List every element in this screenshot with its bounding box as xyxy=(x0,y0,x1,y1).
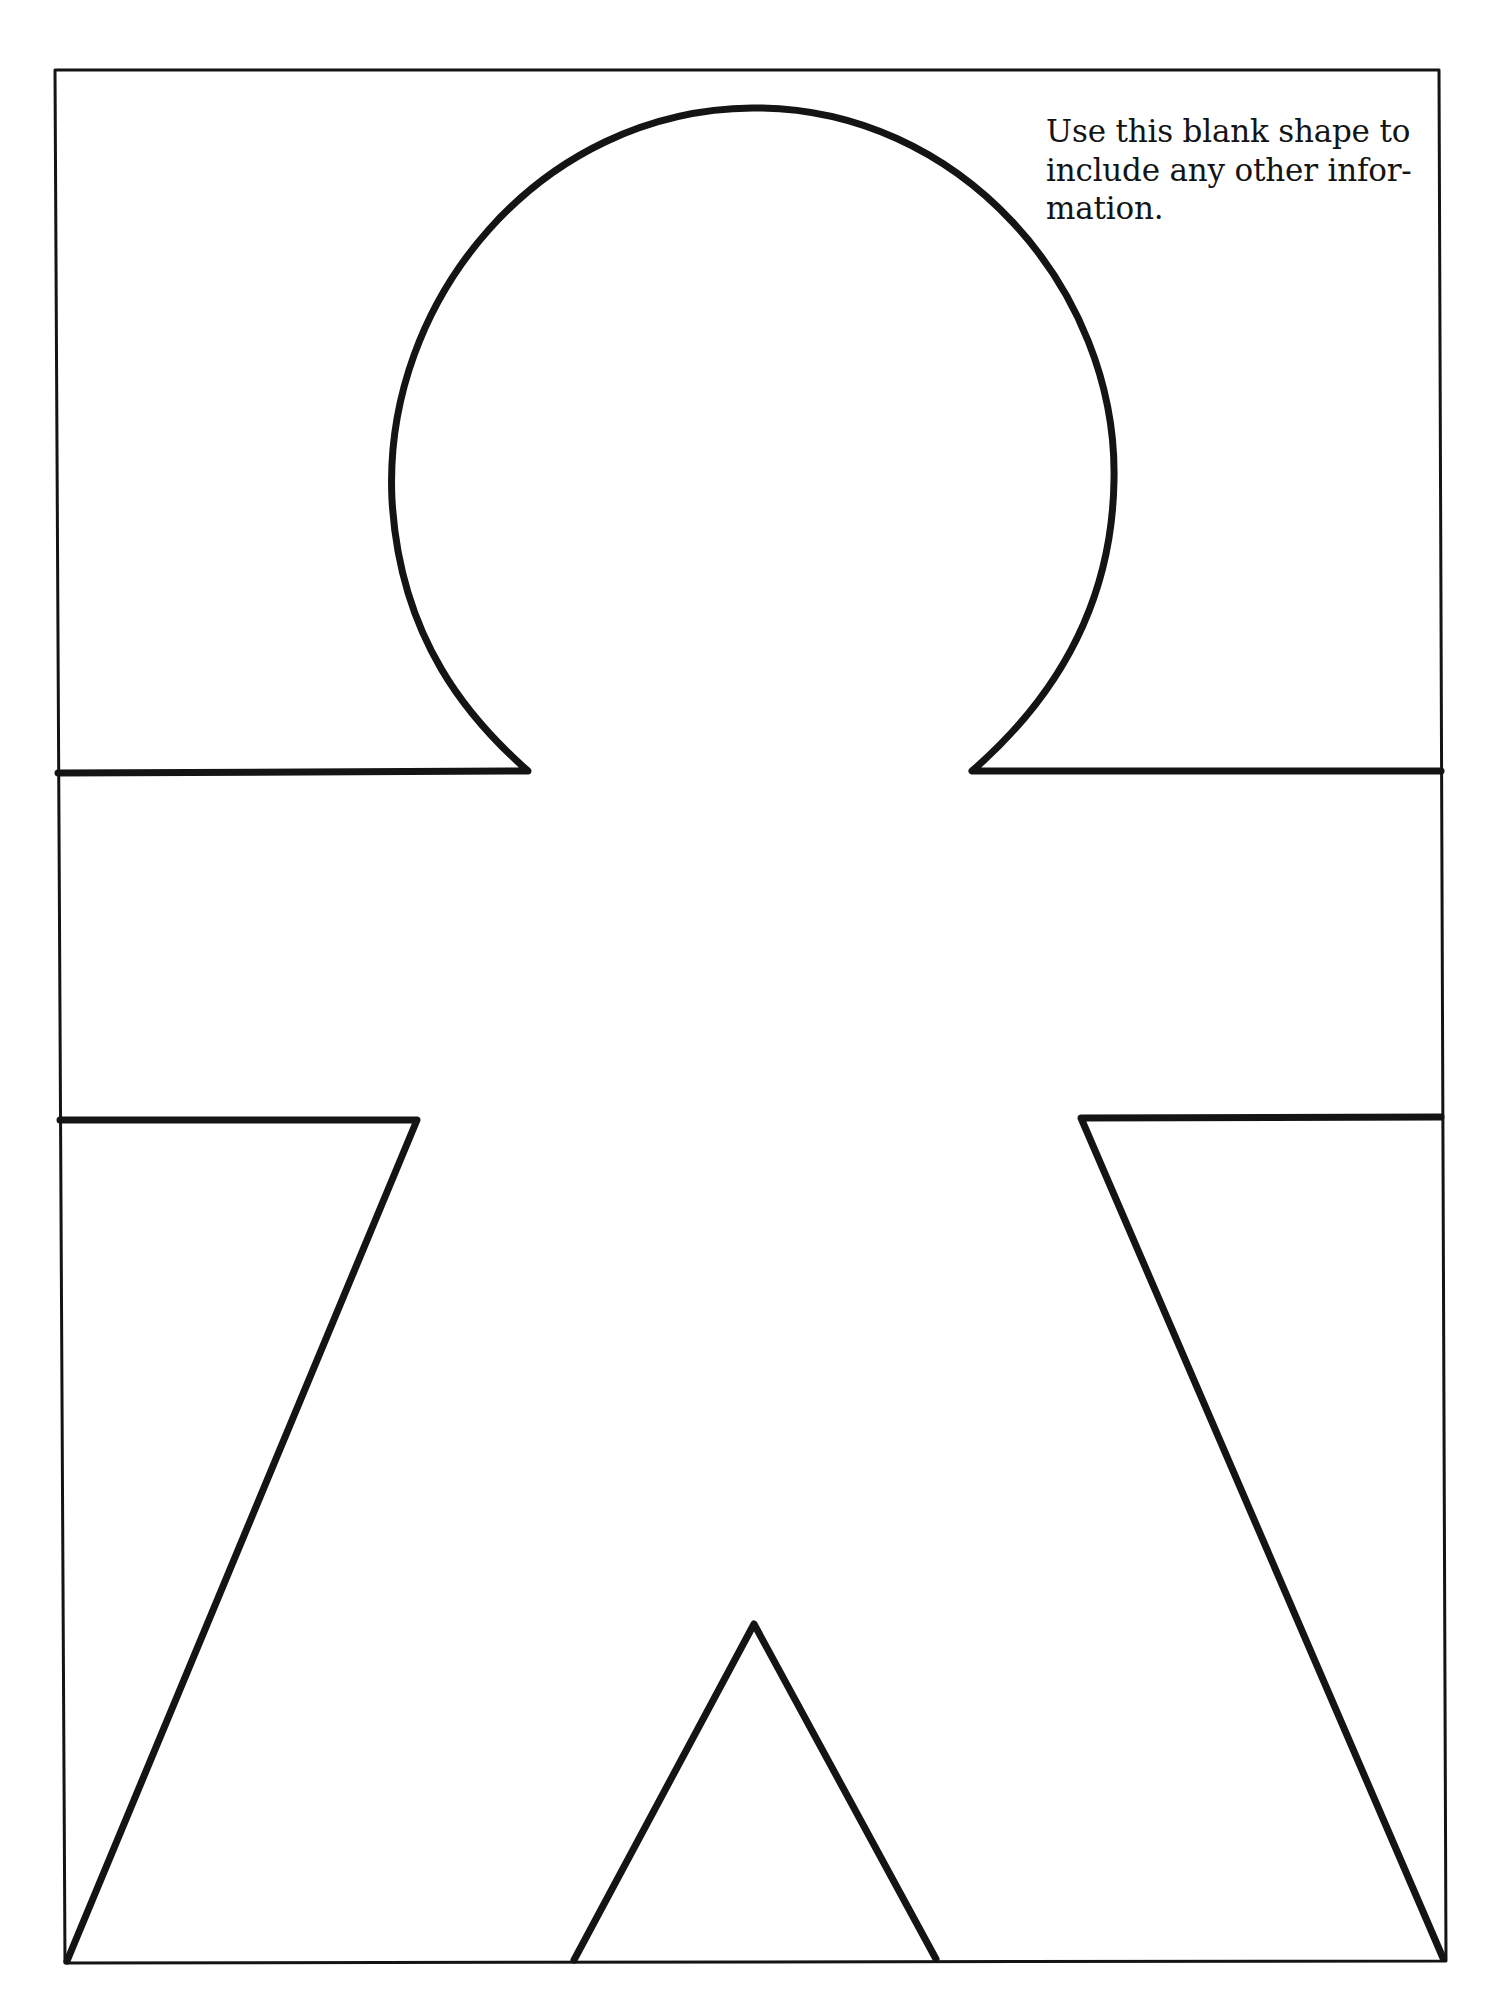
worksheet-page: Use this blank shape to include any othe… xyxy=(0,0,1501,2016)
inner-legs-outline xyxy=(574,1624,936,1960)
right-arm-and-leg-outline xyxy=(1081,1117,1443,1958)
instruction-line-3: mation. xyxy=(1046,189,1438,228)
instruction-text: Use this blank shape to include any othe… xyxy=(1046,112,1438,228)
instruction-line-1: Use this blank shape to xyxy=(1046,112,1438,151)
left-arm-and-leg-outline xyxy=(60,1120,417,1961)
blank-figure-drawing xyxy=(0,0,1501,2016)
page-frame xyxy=(55,70,1446,1963)
instruction-line-2: include any other infor- xyxy=(1046,151,1438,190)
